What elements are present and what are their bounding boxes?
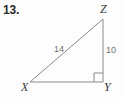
vertex-label-z: Z [100, 3, 107, 15]
side-length-label-zy: 10 [106, 45, 116, 55]
side-length-label-xz: 14 [54, 44, 64, 54]
vertex-label-x: X [21, 81, 28, 93]
right-angle-marker-icon [94, 73, 103, 82]
vertex-label-y: Y [104, 81, 111, 93]
triangle-outline [30, 19, 103, 82]
geometry-figure: 13. Z X Y 14 10 [0, 0, 123, 98]
